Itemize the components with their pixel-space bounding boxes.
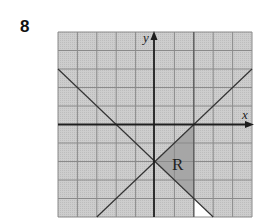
x-axis-label: x — [241, 107, 248, 122]
region-label: R — [172, 155, 184, 174]
y-axis-label: y — [141, 30, 149, 45]
coordinate-graph: y x R — [0, 0, 264, 220]
